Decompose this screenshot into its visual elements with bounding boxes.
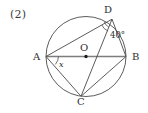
figure-page: (2) A B C D O x 40°	[0, 0, 148, 113]
circle-geometry-figure	[0, 0, 148, 113]
point-label-C: C	[77, 97, 85, 107]
center-point-dot	[84, 55, 87, 58]
angle-label-x: x	[59, 61, 64, 69]
point-label-B: B	[132, 52, 139, 62]
point-label-D: D	[104, 5, 112, 15]
center-label-O: O	[80, 43, 88, 53]
angle-label-40-degrees: 40°	[110, 31, 125, 40]
point-label-A: A	[33, 52, 40, 62]
segment-chord-CB	[81, 57, 126, 97]
segment-chord-AD	[46, 19, 112, 56]
